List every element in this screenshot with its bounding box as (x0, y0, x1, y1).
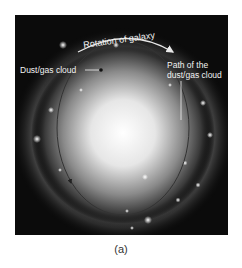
figure-caption: (a) (0, 243, 242, 255)
path-label-line2: dust/gas cloud (167, 70, 222, 80)
cloud-label: Dust/gas cloud (20, 65, 76, 75)
galaxy-figure: Rotation of galaxy Dust/gas cloud Path o… (15, 15, 228, 235)
path-label-line1: Path of the (167, 60, 208, 70)
galaxy-image (15, 15, 228, 235)
